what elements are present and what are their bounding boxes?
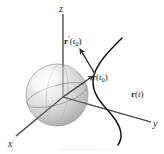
origin-sphere	[25, 63, 90, 127]
tangent-vector-label: r′(t0)	[64, 35, 82, 47]
curve-path	[93, 38, 122, 145]
tangent-label-paren-close: )	[79, 36, 82, 46]
space-curve	[93, 38, 122, 145]
tangent-vector-arrow	[80, 49, 95, 74]
x-axis-label: x	[7, 138, 13, 149]
figure-canvas: z x y r′(t0) r(t0) r(t) ——————— ——— — —	[0, 0, 164, 154]
curve-label-paren-close: )	[141, 89, 144, 99]
z-axis-label: z	[58, 3, 63, 14]
position-label-paren-close: )	[105, 72, 108, 82]
figure-caption: ——————— ——— — —	[58, 146, 112, 151]
y-axis-label: y	[152, 118, 158, 129]
vector-calculus-figure: z x y r′(t0) r(t0) r(t) ——————— ——— — —	[0, 0, 164, 154]
position-vector-label: r(t0)	[92, 72, 108, 83]
curve-label: r(t)	[131, 89, 144, 99]
tangent-vector	[80, 49, 95, 74]
